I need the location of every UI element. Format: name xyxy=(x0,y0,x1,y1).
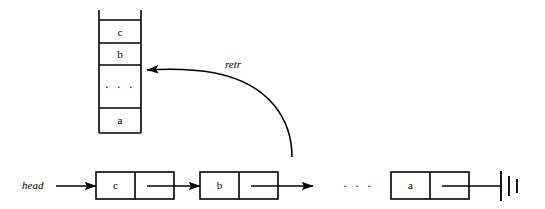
list-node-value-1: c xyxy=(96,180,135,191)
head-label: head xyxy=(22,180,43,191)
null-terminator-icon xyxy=(501,171,517,201)
diagram-vector-layer xyxy=(0,0,545,209)
stack-cell-label-2: · · · xyxy=(99,81,141,93)
stack-cell-label-1: b xyxy=(99,49,141,60)
retr-arrow-label: retr xyxy=(225,59,241,70)
list-ellipsis: · · · xyxy=(343,180,374,192)
list-node-value-3: a xyxy=(391,180,430,191)
stack-cell-label-0: c xyxy=(99,27,141,38)
list-node-value-2: b xyxy=(200,180,239,191)
retr-arrow-curve xyxy=(147,69,292,157)
diagram-canvas: c b · · · a retr head c b a · · · xyxy=(0,0,545,209)
stack-cell-label-3: a xyxy=(99,115,141,126)
retr-arrow xyxy=(147,69,292,157)
